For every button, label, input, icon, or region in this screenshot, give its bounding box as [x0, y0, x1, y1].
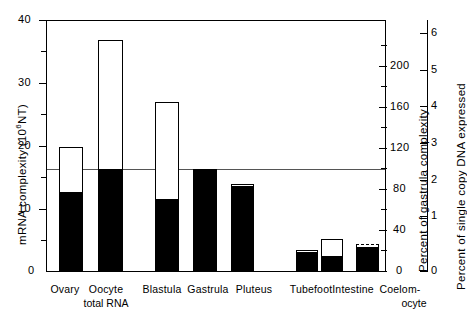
r2tick-3 [420, 143, 428, 144]
bar-coelomocyte[interactable] [356, 244, 379, 271]
bar-oocyte-total-rna[interactable] [98, 40, 123, 271]
r1tick-120 [379, 148, 387, 149]
ytick-40 [39, 20, 47, 21]
xlabel-coelomocyte: Coelom- [372, 283, 428, 295]
xlabel-oocyte-line2: total RNA [79, 297, 133, 309]
yticklabel-40: 40 [18, 13, 31, 25]
y-axis-title-exponent: 6 [14, 124, 23, 129]
r2ticklabel-2: 2 [431, 173, 438, 185]
right-axis-2-spine [427, 20, 428, 272]
r2tick-5 [420, 70, 428, 71]
r2ticklabel-1: 1 [431, 209, 438, 221]
ytick-20 [39, 146, 47, 147]
r1tick-0 [379, 271, 387, 272]
r2tick-6 [420, 33, 428, 34]
r1tick-200 [379, 66, 387, 67]
y-axis-title: mRNA complexity (106NT) [14, 104, 28, 245]
r2tick-2 [420, 180, 428, 181]
xlabel-pluteus: Pluteus [226, 283, 282, 295]
ytick-15 [41, 177, 47, 178]
ytick-30 [39, 83, 47, 84]
r1tick-20 [381, 250, 387, 251]
r2tick-1 [420, 216, 428, 217]
r1tick-80 [379, 189, 387, 190]
yticklabel-30: 30 [18, 76, 31, 88]
y-axis-title-text: mRNA complexity (10 [16, 129, 28, 245]
bar-tubefoot-shared [296, 252, 318, 271]
bar-ovary-shared [59, 192, 83, 271]
r1ticklabel-40: 40 [393, 223, 406, 235]
bar-coelomocyte-shared [356, 247, 379, 271]
bar-oocyte-shared [98, 169, 123, 272]
r1tick-40 [379, 230, 387, 231]
y-axis-title-text2: NT) [16, 104, 28, 124]
bar-tubefoot[interactable] [296, 250, 318, 271]
r2ticklabel-5: 5 [431, 63, 438, 75]
bar-pluteus-shared [231, 186, 254, 271]
bar-pluteus[interactable] [231, 184, 254, 271]
r2tick-4 [420, 106, 428, 107]
r2ticklabel-0: 0 [431, 264, 438, 276]
r1ticklabel-0: 0 [396, 264, 403, 276]
r1ticklabel-200: 200 [390, 59, 410, 71]
bar-gastrula-shared [193, 169, 217, 272]
bar-group [47, 21, 385, 271]
r2tick-0 [420, 271, 428, 272]
xlabel-coelomocyte-line2: ocyte [386, 297, 442, 309]
r2ticklabel-6: 6 [431, 26, 438, 38]
right-axis-2-title: Percent of single copy DNA expressed [455, 83, 467, 290]
r1tick-140 [381, 127, 387, 128]
r1tick-220 [381, 45, 387, 46]
bar-blastula[interactable] [155, 102, 179, 271]
ytick-10 [39, 209, 47, 210]
bar-intestine[interactable] [321, 239, 343, 271]
r1tick-180 [381, 86, 387, 87]
ytick-5 [41, 240, 47, 241]
r2ticklabel-3: 3 [431, 136, 438, 148]
r1ticklabel-120: 120 [390, 141, 410, 153]
xlabel-oocyte: Oocyte [79, 283, 133, 295]
r1ticklabel-80: 80 [393, 182, 406, 194]
r1tick-60 [381, 209, 387, 210]
r2ticklabel-4: 4 [431, 99, 438, 111]
yticklabel-0: 0 [28, 264, 35, 276]
bar-blastula-shared [155, 199, 179, 272]
bar-intestine-shared [321, 256, 343, 271]
plot-area [46, 20, 386, 272]
r1ticklabel-160: 160 [390, 100, 410, 112]
r1tick-100 [381, 168, 387, 169]
ytick-25 [41, 114, 47, 115]
bar-gastrula[interactable] [193, 169, 217, 272]
ytick-35 [41, 51, 47, 52]
bar-ovary[interactable] [59, 147, 83, 271]
r1tick-160 [379, 107, 387, 108]
